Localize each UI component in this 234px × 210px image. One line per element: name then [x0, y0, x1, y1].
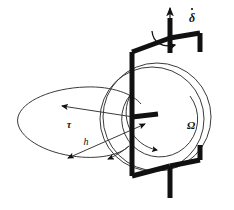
spin-rate-symbol: Ω [187, 119, 196, 131]
angular-momentum-symbol: h [84, 136, 89, 147]
gyroscope-figure: δ Ω τ h [0, 0, 234, 210]
wheel-axle-stub [132, 114, 158, 117]
precession-rate-symbol: δ [189, 11, 195, 25]
torque-symbol: τ [67, 119, 72, 130]
precession-rate-label: δ [189, 8, 195, 25]
gyroscope-diagram-canvas: δ Ω τ h [0, 0, 234, 210]
precession-rate-overdot [191, 8, 193, 10]
